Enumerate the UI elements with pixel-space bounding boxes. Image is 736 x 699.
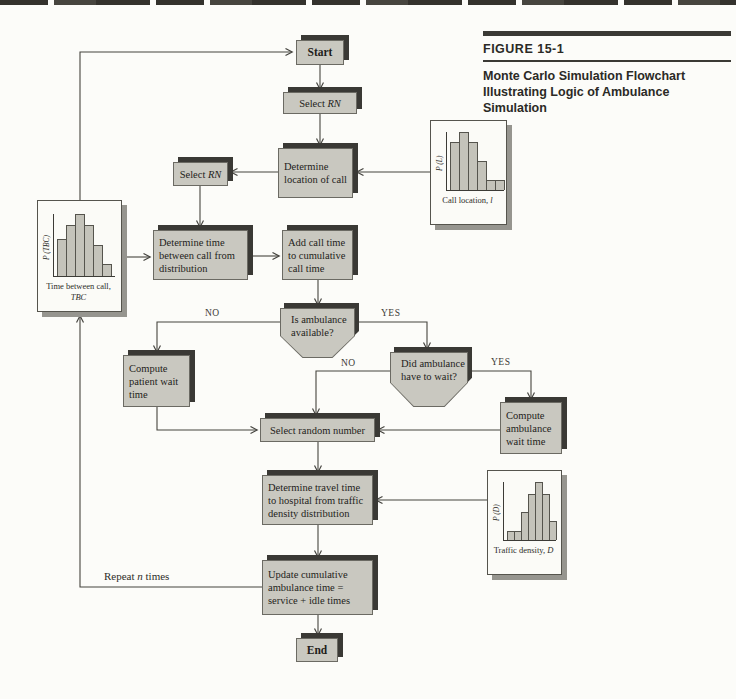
tbc-histogram-plot (53, 214, 115, 277)
decision1-yes-label: YES (381, 308, 400, 318)
scanned-textbook-figure: FIGURE 15-1 Monte Carlo Simulation Flowc… (0, 0, 736, 699)
node-compute-ambulance-label: Compute ambulance wait time (506, 409, 556, 448)
repeat-n-times-label: Repeat n times (104, 570, 169, 582)
node-select-rn-1: Select RN (283, 92, 357, 114)
node-compute-ambulance-wait: Compute ambulance wait time (500, 402, 562, 454)
wire-decision1-no (157, 322, 280, 352)
node-determine-travel-time: Determine travel time to hospital from t… (262, 475, 373, 525)
node-update-cumulative-label: Update cumulative ambulance time = servi… (268, 568, 367, 607)
histogram-traffic-density: P (D) Traffic density, D (487, 470, 562, 575)
node-compute-patient-label: Compute patient wait time (129, 362, 184, 401)
node-determine-time-between-calls: Determine time between call from distrib… (153, 230, 248, 280)
wire-decision2-no (316, 371, 390, 415)
histogram-bar (102, 264, 112, 276)
wire-decision1-yes (355, 322, 427, 349)
node-select-rn-1-label: Select RN (299, 97, 341, 110)
callloc-x-axis-label: Call location, l (435, 195, 500, 206)
node-add-call-time-label: Add call time to cumulative call time (288, 236, 347, 275)
node-start: Start (296, 40, 344, 65)
node-select-random-number: Select random number (260, 418, 375, 442)
node-determine-location-label: Determine location of call (284, 160, 347, 186)
decision2-yes-label: YES (491, 357, 510, 367)
histogram-call-location: P (L) Call location, l (430, 120, 507, 225)
decision1-text: Is ambulance available? (281, 309, 354, 357)
node-compute-patient-wait: Compute patient wait time (123, 355, 190, 407)
decision2-text: Did ambulance have to wait? (391, 353, 467, 406)
histogram-time-between-calls: P (TBC) Time between call, TBC (37, 200, 122, 312)
traffic-histogram-plot (503, 482, 556, 541)
histogram-bar (495, 180, 505, 190)
traffic-y-axis-label: P (D) (492, 485, 503, 541)
decision1-no-label: NO (205, 308, 220, 318)
traffic-x-axis-label: Traffic density, D (492, 545, 555, 556)
node-add-call-time: Add call time to cumulative call time (282, 230, 353, 280)
node-end-label: End (307, 644, 327, 657)
node-select-rn-2: Select RN (173, 162, 228, 186)
node-decision-ambulance-had-to-wait: Did ambulance have to wait? (390, 352, 468, 407)
decision2-no-label: NO (341, 358, 356, 368)
node-start-label: Start (308, 46, 333, 59)
node-update-cumulative-time: Update cumulative ambulance time = servi… (262, 560, 373, 615)
wire-decision2-yes (468, 371, 531, 399)
tbc-x-axis-label: Time between call, TBC (42, 281, 115, 302)
callloc-histogram-plot (446, 132, 504, 191)
node-determine-time-label: Determine time between call from distrib… (159, 236, 242, 275)
node-end: End (296, 638, 338, 662)
node-select-random-label: Select random number (270, 424, 365, 437)
node-determine-location: Determine location of call (278, 148, 353, 198)
node-decision-ambulance-available: Is ambulance available? (280, 308, 355, 358)
tbc-y-axis-label: P (TBC) (42, 217, 53, 277)
histogram-bar (549, 521, 557, 540)
node-determine-travel-label: Determine travel time to hospital from t… (268, 481, 367, 520)
node-select-rn-2-label: Select RN (180, 168, 222, 181)
wire-patient-to-selectrandom (157, 407, 257, 430)
callloc-y-axis-label: P (L) (435, 135, 446, 191)
